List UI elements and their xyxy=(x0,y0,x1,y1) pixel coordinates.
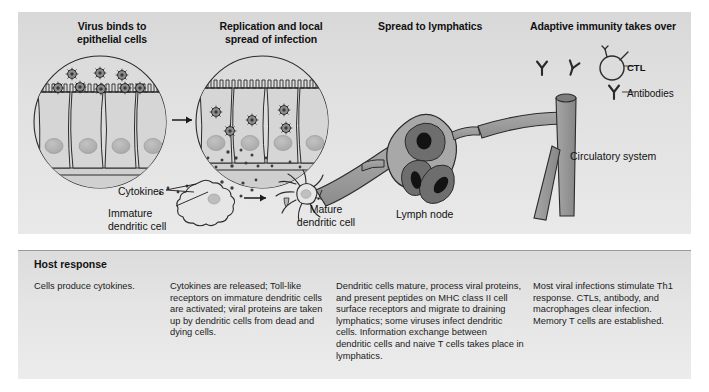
arrow-stage1-to-stage2 xyxy=(172,117,192,124)
stage-2-replication-circle xyxy=(196,56,358,189)
label-line: Immature xyxy=(108,207,194,220)
label-immature-dendritic-cell: Immature dendritic cell xyxy=(108,207,194,233)
figure-root: Virus binds to epithelial cells Replicat… xyxy=(0,0,709,392)
stage-1-epithelium-circle xyxy=(34,56,190,190)
antibody-icon xyxy=(566,60,580,76)
label-line: Mature xyxy=(283,203,369,216)
host-response-column-2: Cytokines are released; Toll-like recept… xyxy=(170,281,328,339)
antibody-icon xyxy=(537,62,547,76)
label-circulatory-system: Circulatory system xyxy=(570,150,656,163)
efferent-lymphatic xyxy=(478,112,565,138)
host-response-column-1: Cells produce cytokines. xyxy=(34,281,166,293)
label-mature-dendritic-cell: Mature dendritic cell xyxy=(283,203,369,229)
label-line: dendritic cell xyxy=(108,220,194,233)
antibody-icon-legend xyxy=(609,86,619,100)
host-response-column-3: Dendritic cells mature, process viral pr… xyxy=(336,281,524,362)
label-antibodies: Antibodies xyxy=(627,88,674,101)
label-cytokines: Cytokines xyxy=(118,185,164,198)
host-response-column-4: Most viral infections stimulate Th1 resp… xyxy=(533,281,685,327)
label-line: dendritic cell xyxy=(283,216,369,229)
label-ctl: CTL xyxy=(627,62,645,75)
arrow-immature-to-mature xyxy=(244,195,266,202)
label-lymph-node: Lymph node xyxy=(396,208,453,221)
ctl-cell-icon xyxy=(600,46,628,80)
host-response-title: Host response xyxy=(34,258,107,270)
